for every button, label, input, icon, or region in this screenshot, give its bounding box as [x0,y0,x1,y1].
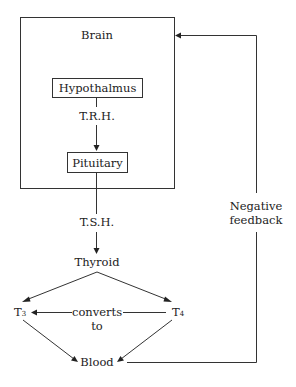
converts-label: converts [72,305,122,319]
hypothalmus-label: Hypothalmus [59,81,137,95]
brain-label: Brain [81,28,113,42]
t3-arrowhead-icon [22,297,31,303]
feedback-label-line1: Negative [230,199,283,213]
blood-label: Blood [80,355,114,369]
feedback-label-line2: feedback [230,213,284,227]
feedback-arrowhead-icon [175,33,181,39]
thyroid-to-t4-line [97,272,168,300]
thyroid-to-t3-line [26,272,97,300]
tsh-arrowhead-icon [94,248,100,254]
t3-label: T3 [14,305,26,319]
to-label: to [91,319,103,333]
t4-arrowhead-icon [164,297,173,303]
t3-to-blood-line [23,320,74,359]
thyroid-label: Thyroid [74,255,120,269]
t4-label: T4 [172,305,185,319]
converts-arrowhead-icon [31,310,37,316]
thyroid-feedback-diagram: Brain Hypothalmus T.R.H. Pituitary T.S.H… [0,0,296,387]
trh-label: T.R.H. [79,109,115,123]
pituitary-label: Pituitary [72,156,123,170]
tsh-label: T.S.H. [80,215,114,229]
t4-to-blood-line [121,320,172,359]
